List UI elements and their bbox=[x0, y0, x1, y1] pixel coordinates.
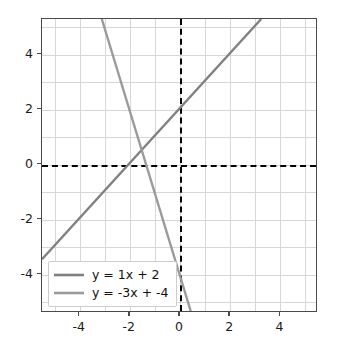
x-tick-mark bbox=[128, 312, 129, 316]
x-tick-mark bbox=[228, 312, 229, 316]
series-line-1 bbox=[42, 19, 261, 259]
y-tick-label: -4 bbox=[21, 268, 33, 281]
legend-label-1: y = 1x + 2 bbox=[92, 269, 160, 282]
x-tick-mark bbox=[279, 312, 280, 316]
y-tick-label: 2 bbox=[25, 103, 33, 116]
x-tick-label: 0 bbox=[159, 321, 199, 334]
x-tick-mark bbox=[178, 312, 179, 316]
x-tick-label: 2 bbox=[209, 321, 249, 334]
legend-item: y = -3x + -4 bbox=[54, 284, 169, 302]
x-tick-label: -2 bbox=[109, 321, 149, 334]
x-tick-label: -4 bbox=[59, 321, 99, 334]
legend-item: y = 1x + 2 bbox=[54, 266, 169, 284]
chart-legend: y = 1x + 2 y = -3x + -4 bbox=[48, 261, 177, 307]
x-tick-label: 4 bbox=[259, 321, 299, 334]
legend-color-swatch-2 bbox=[54, 290, 84, 296]
y-tick-label: 4 bbox=[25, 48, 33, 61]
legend-color-swatch-1 bbox=[54, 272, 84, 278]
chart-figure: 420-2-4 -4-2024 y = 1x + 2 y = -3x + -4 bbox=[0, 0, 347, 352]
legend-label-2: y = -3x + -4 bbox=[92, 287, 169, 300]
y-tick-label: 0 bbox=[25, 158, 33, 171]
y-tick-label: -2 bbox=[21, 213, 33, 226]
x-tick-mark bbox=[78, 312, 79, 316]
